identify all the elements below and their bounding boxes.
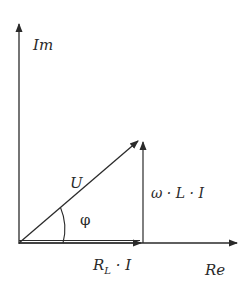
phi-label: φ [80,211,91,229]
resistive-label: RL · I [92,256,132,276]
reactive-label: ω · L · I [151,185,204,201]
real-axis-label: Re [204,261,225,279]
voltage-label: U [70,174,84,192]
resistive-vector [19,241,141,244]
phi-angle-arc [61,208,65,244]
voltage-vector [19,141,138,243]
imaginary-axis-label: Im [32,36,53,54]
phasor-diagram: Im Re U ω · L · I φ RL · I [0,0,250,281]
